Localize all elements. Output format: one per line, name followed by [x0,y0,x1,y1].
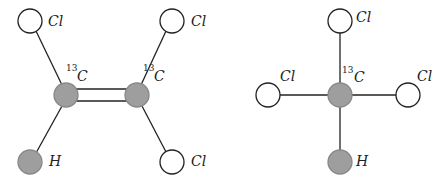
atom-label: Cl [417,68,432,84]
chlorine-atom [328,9,352,33]
molecule-trichloroethylene [18,9,184,174]
bond-c1-h1 [36,106,62,153]
chlorine-atom [256,83,280,107]
atom-label: Cl [280,68,295,84]
chlorine-atom [160,150,184,174]
atom-label: H [355,153,369,169]
atom-label: C [154,68,165,84]
carbon-13-atom [328,83,352,107]
molecule-chloroform [256,9,420,174]
atom-label: Cl [191,13,206,29]
atom-label: C [77,68,88,84]
carbon-13-atom [125,83,149,107]
chlorine-atom [396,83,420,107]
chlorine-atom [160,9,184,33]
chlorine-atom [18,9,42,33]
bond-c2-cl3 [142,106,166,152]
atom-label: H [48,153,62,169]
carbon-13-atom [54,83,78,107]
molecule-diagram: Cl Cl 13 C 13 C H Cl Cl Cl 13 C Cl H [0,0,445,184]
atom-label: Cl [356,9,371,25]
hydrogen-atom [328,150,352,174]
atom-label: Cl [48,13,63,29]
atom-label: C [354,69,365,85]
atom-label: Cl [191,153,206,169]
isotope-label: 13 [342,65,354,75]
hydrogen-atom [18,150,42,174]
isotope-label: 13 [143,63,155,73]
isotope-label: 13 [66,63,78,73]
bond-cl1-c1 [36,31,62,85]
